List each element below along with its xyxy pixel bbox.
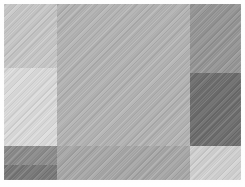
mosaic-tile-bottom-left-lower: bottom-left-lower <box>4 165 57 180</box>
mosaic-tile-bottom-right: bottom-right <box>190 146 241 180</box>
mosaic-tile-mid-right: mid-right <box>190 73 241 146</box>
mosaic-tile-mid-left: mid-left <box>4 68 57 146</box>
mosaic-tile-top-right: top-right <box>190 4 241 73</box>
mosaic-tile-center: center <box>57 4 190 146</box>
mosaic-tile-bottom-center: bottom-center <box>57 146 190 180</box>
mosaic-tile-top-left: top-left <box>4 4 57 68</box>
mosaic-tile-bottom-left-upper: bottom-left-upper <box>4 146 57 165</box>
mosaic-canvas: top-left mid-left center top-right mid-r… <box>0 0 245 187</box>
